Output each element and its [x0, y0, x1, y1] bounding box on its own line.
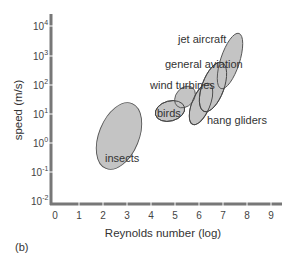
- svg-text:102: 102: [33, 78, 48, 91]
- label-insects: insects: [105, 152, 140, 164]
- svg-text:101: 101: [33, 107, 48, 120]
- svg-text:7: 7: [220, 210, 226, 221]
- chart-figure: insects birds wind turbines hang gliders…: [0, 0, 295, 257]
- label-birds: birds: [157, 107, 181, 119]
- svg-text:10-1: 10-1: [31, 165, 48, 178]
- label-general-aviation: general aviation: [165, 58, 243, 70]
- svg-text:104: 104: [33, 19, 48, 32]
- x-axis-label: Reynolds number (log): [105, 227, 222, 239]
- panel-label: (b): [15, 241, 28, 253]
- svg-text:100: 100: [33, 136, 48, 149]
- svg-text:2: 2: [100, 210, 106, 221]
- y-axis-label: speed (m/s): [12, 79, 24, 140]
- label-wind-turbines: wind turbines: [149, 79, 215, 91]
- svg-text:3: 3: [124, 210, 130, 221]
- svg-text:6: 6: [196, 210, 202, 221]
- svg-text:8: 8: [244, 210, 250, 221]
- svg-text:9: 9: [268, 210, 274, 221]
- label-hang-gliders: hang gliders: [207, 114, 267, 126]
- svg-text:0: 0: [52, 210, 58, 221]
- y-tick-labels: 104 103 102 101 100 10-1 10-2: [31, 19, 48, 207]
- x-tick-labels: 0 1 2 3 4 5 6 7 8 9: [52, 210, 274, 221]
- svg-text:103: 103: [33, 49, 48, 62]
- svg-text:1: 1: [76, 210, 82, 221]
- svg-text:10-2: 10-2: [31, 194, 48, 207]
- svg-text:5: 5: [172, 210, 178, 221]
- label-jet-aircraft: jet aircraft: [177, 33, 226, 45]
- svg-text:4: 4: [148, 210, 154, 221]
